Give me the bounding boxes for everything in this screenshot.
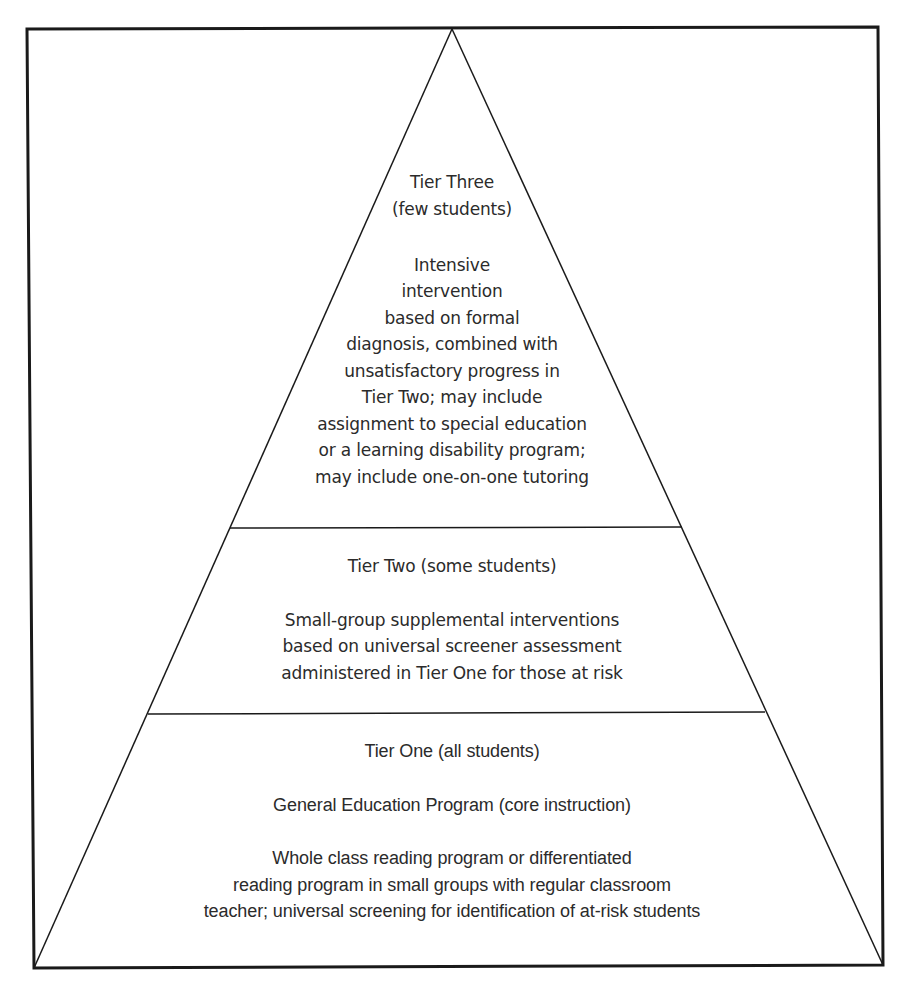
pyramid-shape — [0, 0, 904, 986]
tier-one-body-line: teacher; universal screening for identif… — [0, 900, 904, 922]
pyramid-diagram: Tier Three (few students) Intensive inte… — [0, 0, 904, 986]
tier-two-heading: Tier Two (some students) — [0, 555, 904, 577]
divider-tier2-tier1 — [148, 712, 765, 714]
pyramid-right-edge — [452, 29, 883, 965]
tier-three-heading: Tier Three — [0, 171, 904, 193]
tier-three-body-line: or a learning disability program; — [0, 439, 904, 461]
tier-one-body-line: reading program in small groups with reg… — [0, 874, 904, 896]
tier-three-body-line: Tier Two; may include — [0, 386, 904, 408]
tier-two-body-line: based on universal screener assessment — [0, 635, 904, 657]
tier-three-body-line: intervention — [0, 280, 904, 302]
outer-frame — [27, 27, 883, 968]
tier-three-body-line: Intensive — [0, 254, 904, 276]
tier-one-body-line: Whole class reading program or different… — [0, 847, 904, 869]
tier-two-body-line: administered in Tier One for those at ri… — [0, 662, 904, 684]
tier-three-body-line: diagnosis, combined with — [0, 333, 904, 355]
divider-tier3-tier2 — [230, 527, 682, 528]
tier-three-subheading: (few students) — [0, 198, 904, 220]
tier-three-body-line: assignment to special education — [0, 413, 904, 435]
tier-three-body-line: unsatisfactory progress in — [0, 360, 904, 382]
tier-one-heading: Tier One (all students) — [0, 740, 904, 762]
tier-three-body-line: based on formal — [0, 307, 904, 329]
pyramid-left-edge — [34, 29, 452, 968]
tier-one-subheading: General Education Program (core instruct… — [0, 794, 904, 816]
tier-three-body-line: may include one-on-one tutoring — [0, 466, 904, 488]
tier-two-body-line: Small-group supplemental interventions — [0, 609, 904, 631]
